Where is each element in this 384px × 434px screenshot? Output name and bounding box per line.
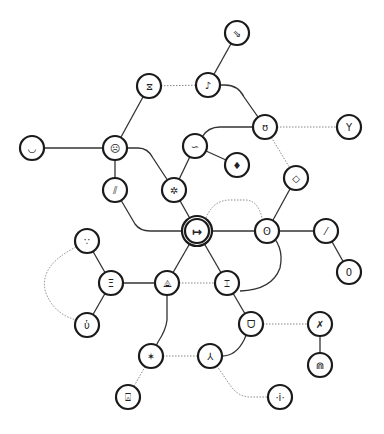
graph-node-n22[interactable]: ᗜ [239,312,263,336]
graph-node-n19[interactable]: ⟁ [155,271,179,295]
graph-node-n25[interactable]: ⅄ [198,344,222,368]
hourglass-icon: ⧖ [146,81,153,92]
target-icon: ʘ [263,226,271,237]
graph-node-n13[interactable]: ↦ [182,216,212,246]
graph-node-n4[interactable]: ʊ [253,115,277,139]
graph-node-n21[interactable]: ὑ [75,313,99,337]
graph-node-n17[interactable]: ∵ [75,229,99,253]
dots-icon: ∵ [84,236,90,247]
graph-node-n15[interactable]: ⁄ [314,219,338,243]
xi-icon: Ξ [108,278,114,289]
gem-icon: ♦ [233,160,242,171]
graph-node-n24[interactable]: ✶ [139,344,163,368]
graph-node-n11[interactable]: ✲ [162,178,186,202]
graph-node-n5[interactable]: Y [337,115,361,139]
arch-icon: ⋒ [316,360,324,371]
diagonal-arrows-icon: ⇘ [233,28,241,39]
graph-node-n20[interactable]: ⌶ [215,271,239,295]
curl-icon: ♪ [205,80,211,91]
graph-node-n1[interactable]: ⇘ [225,21,249,45]
graph-node-n10[interactable]: ⫽ [103,178,127,202]
graph-node-n14[interactable]: ʘ [255,219,279,243]
frown-face-icon: ☹ [110,143,120,154]
graph-node-n3[interactable]: ⧖ [137,74,161,98]
graph-node-n23[interactable]: ✗ [308,312,332,336]
graph-node-n9[interactable]: ◡ [20,136,44,160]
graph-node-n18[interactable]: Ξ [99,271,123,295]
dotted-edge [44,247,76,320]
graph-node-n6[interactable]: ∽ [183,134,207,158]
graph-node-n12[interactable]: ◇ [284,166,308,190]
lamp-icon: ⍓ [125,392,131,403]
edges-layer [32,33,349,397]
cup-icon: ʊ [262,122,268,133]
wave-icon: ∽ [191,141,199,152]
cross-icon: ✗ [316,319,324,330]
fork-icon: Y [345,122,353,133]
graph-node-n7[interactable]: ♦ [225,153,249,177]
graph-canvas: ⇘♪⧖ʊY∽♦☹◡⫽✲◇↦ʘ⁄0∵Ξ⟁⌶ὑᗜ✗✶⅄⋒⍓·i· [0,0,384,434]
sparkle-icon: ✲ [170,185,178,196]
graph-node-n28[interactable]: ·i· [268,385,292,409]
beam-icon: ⌶ [224,278,230,289]
graph-node-n27[interactable]: ⍓ [116,385,140,409]
smile-icon: ◡ [28,143,37,154]
graph-node-n26[interactable]: ⋒ [308,353,332,377]
bowl-icon: ᗜ [247,319,255,330]
nodes-layer: ⇘♪⧖ʊY∽♦☹◡⫽✲◇↦ʘ⁄0∵Ξ⟁⌶ὑᗜ✗✶⅄⋒⍓·i· [20,21,361,409]
graph-node-n8[interactable]: ☹ [103,136,127,160]
dotted-edge [206,200,262,218]
maps-to-icon: ↦ [192,225,202,239]
capsule-icon: 0 [346,267,352,278]
triangle-node-icon: ⟁ [163,278,172,289]
graph-node-n16[interactable]: 0 [337,260,361,284]
info-dots-icon: ·i· [275,392,284,403]
graph-node-n2[interactable]: ♪ [196,73,220,97]
graph-diagram: ⇘♪⧖ʊY∽♦☹◡⫽✲◇↦ʘ⁄0∵Ξ⟁⌶ὑᗜ✗✶⅄⋒⍓·i· [0,0,384,434]
star-icon: ✶ [147,351,155,362]
u-dot-icon: ὑ [84,320,90,331]
diamond-icon: ◇ [292,173,300,184]
turned-y-icon: ⅄ [207,351,214,362]
